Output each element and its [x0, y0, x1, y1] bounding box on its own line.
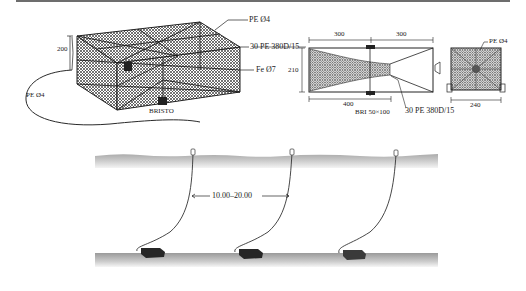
label-buoy-line: PE Ø4 [26, 92, 44, 99]
label-side-height: 210 [288, 67, 299, 74]
label-pot-spacing: 10.00–20.00 [212, 192, 252, 200]
label-end-width: 240 [470, 102, 481, 109]
label-top-rope: PE Ø4 [249, 16, 270, 24]
label-side-entrance: BRI 50×100 [355, 109, 390, 116]
label-netting: 30 PE 380D/15 [250, 43, 299, 51]
label-entrance: BRISTO [149, 108, 174, 115]
label-frame: Fe Ø7 [256, 66, 276, 74]
label-side-dim-right: 300 [396, 31, 407, 38]
end-view [447, 42, 505, 103]
deployment-scene [95, 149, 438, 267]
water-surface [95, 154, 438, 168]
isometric-pot [26, 20, 254, 125]
label-side-netting: 30 PE 380D/15 [405, 107, 454, 115]
label-end-rope: PE Ø4 [489, 38, 507, 45]
label-side-dim-left: 300 [334, 31, 345, 38]
label-funnel-length: 400 [343, 101, 354, 108]
label-height-dim: 200 [57, 46, 68, 53]
